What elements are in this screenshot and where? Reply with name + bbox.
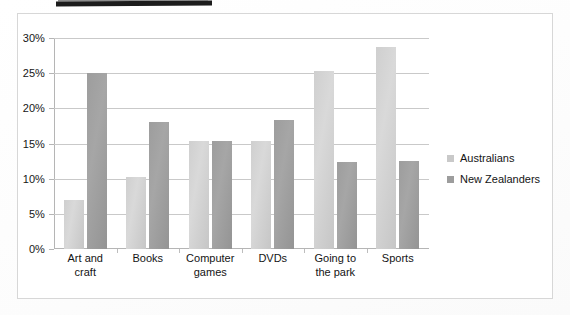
legend-swatch-icon-australians bbox=[447, 155, 454, 162]
gridline bbox=[54, 38, 429, 39]
legend-swatch-icon-new-zealanders bbox=[447, 176, 454, 183]
cropped-heading-underline bbox=[56, 1, 212, 7]
gridline bbox=[54, 144, 429, 145]
legend-label-new-zealanders: New Zealanders bbox=[460, 173, 540, 185]
gridline bbox=[54, 73, 429, 74]
y-axis-label: 5% bbox=[29, 208, 45, 220]
bar bbox=[87, 73, 107, 249]
bar bbox=[337, 162, 357, 249]
y-axis-tick bbox=[49, 144, 54, 145]
y-axis-label: 20% bbox=[23, 102, 45, 114]
y-axis-tick bbox=[49, 214, 54, 215]
y-axis-tick bbox=[49, 38, 54, 39]
x-axis-category-label: Sports bbox=[367, 252, 430, 266]
y-axis-label: 15% bbox=[23, 138, 45, 150]
bar bbox=[399, 161, 419, 249]
legend-item-new-zealanders: New Zealanders bbox=[447, 173, 557, 185]
y-axis-label: 0% bbox=[29, 243, 45, 255]
bar bbox=[126, 177, 146, 249]
legend-label-australians: Australians bbox=[460, 152, 514, 164]
legend-item-australians: Australians bbox=[447, 152, 557, 164]
y-axis-label: 25% bbox=[23, 67, 45, 79]
y-axis-tick bbox=[49, 108, 54, 109]
bar bbox=[314, 71, 334, 249]
bar bbox=[376, 47, 396, 249]
x-axis-category-label: Computer games bbox=[179, 252, 242, 279]
y-axis-label: 30% bbox=[23, 32, 45, 44]
x-axis-category-label: Art and craft bbox=[54, 252, 117, 279]
x-axis-category-label: Going to the park bbox=[304, 252, 367, 279]
y-axis-tick bbox=[49, 73, 54, 74]
chart-legend: Australians New Zealanders bbox=[447, 152, 557, 194]
y-axis-label: 10% bbox=[23, 173, 45, 185]
bar bbox=[189, 141, 209, 249]
x-axis-category-label: DVDs bbox=[242, 252, 305, 266]
y-axis-tick bbox=[49, 249, 54, 250]
gridline bbox=[54, 108, 429, 109]
bar bbox=[274, 120, 294, 249]
x-axis-category-label: Books bbox=[117, 252, 180, 266]
bar bbox=[212, 141, 232, 249]
bar bbox=[149, 122, 169, 249]
plot-area: 0%5%10%15%20%25%30%Art and craftBooksCom… bbox=[54, 38, 429, 249]
chart-container: 0%5%10%15%20%25%30%Art and craftBooksCom… bbox=[17, 13, 553, 299]
bar bbox=[251, 141, 271, 249]
gridline bbox=[54, 179, 429, 180]
bar bbox=[64, 200, 84, 249]
y-axis-tick bbox=[49, 179, 54, 180]
gridline bbox=[54, 214, 429, 215]
